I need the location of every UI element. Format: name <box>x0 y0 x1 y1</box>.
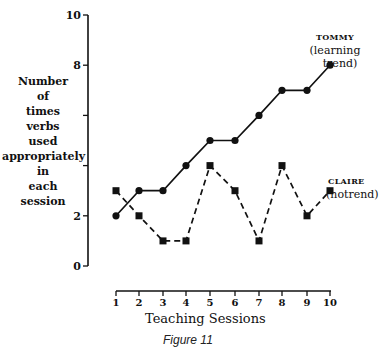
data-point-circle <box>135 187 142 194</box>
data-point-square <box>113 187 120 194</box>
tommy-annotation-line-1: (learning <box>300 44 370 57</box>
claire-annotation: (notrend) <box>326 188 379 201</box>
y-axis-label-line: used <box>2 134 84 149</box>
x-tick-label: 10 <box>323 297 337 308</box>
series-layer <box>112 62 333 245</box>
y-axis-label-line: Number <box>2 74 84 89</box>
data-point-circle <box>182 162 189 169</box>
x-axis-label: Teaching Sessions <box>145 311 266 326</box>
tommy-label: TOMMY (learning trend) <box>300 31 370 70</box>
claire-name: CLAIRE <box>328 175 379 188</box>
x-tick-label: 1 <box>113 297 120 308</box>
figure-caption: Figure 11 <box>163 333 213 347</box>
y-tick-label: 8 <box>73 59 81 72</box>
data-point-circle <box>206 137 213 144</box>
y-tick-label: 10 <box>66 9 82 22</box>
tommy-name: TOMMY <box>300 31 370 44</box>
data-point-square <box>304 212 311 219</box>
series-claire <box>113 162 334 244</box>
x-tick-label: 9 <box>304 297 311 308</box>
data-point-square <box>136 212 143 219</box>
x-tick-label: 3 <box>160 297 167 308</box>
y-tick-label: 0 <box>73 260 81 273</box>
data-point-circle <box>278 87 285 94</box>
x-tick-label: 8 <box>279 297 286 308</box>
x-tick-label: 7 <box>256 297 263 308</box>
y-axis-label-line: appropriately <box>2 149 84 164</box>
y-axis-label: Numberoftimesverbsusedappropriatelyineac… <box>2 74 84 209</box>
data-point-circle <box>303 87 310 94</box>
y-axis-label-line: in <box>2 164 84 179</box>
y-axis-label-line: of <box>2 89 84 104</box>
tommy-annotation-line-2: trend) <box>300 57 370 70</box>
x-axis: 12345678910 <box>113 291 337 308</box>
claire-label: CLAIRE (notrend) <box>328 175 379 201</box>
y-axis-label-line: verbs <box>2 119 84 134</box>
y-tick-label: 2 <box>73 210 81 223</box>
x-tick-label: 6 <box>232 297 239 308</box>
data-point-circle <box>112 212 119 219</box>
series-tommy <box>112 62 333 220</box>
y-axis-label-line: times <box>2 104 84 119</box>
data-point-square <box>256 237 263 244</box>
x-tick-label: 2 <box>136 297 143 308</box>
data-point-square <box>232 187 239 194</box>
data-point-square <box>279 162 286 169</box>
data-point-square <box>183 237 190 244</box>
x-tick-label: 5 <box>207 297 214 308</box>
data-point-circle <box>255 112 262 119</box>
y-axis-label-line: each <box>2 179 84 194</box>
data-point-circle <box>159 187 166 194</box>
data-point-circle <box>231 137 238 144</box>
y-axis-label-line: session <box>2 194 84 209</box>
data-point-square <box>207 162 214 169</box>
x-tick-label: 4 <box>183 297 190 308</box>
data-point-square <box>160 237 167 244</box>
